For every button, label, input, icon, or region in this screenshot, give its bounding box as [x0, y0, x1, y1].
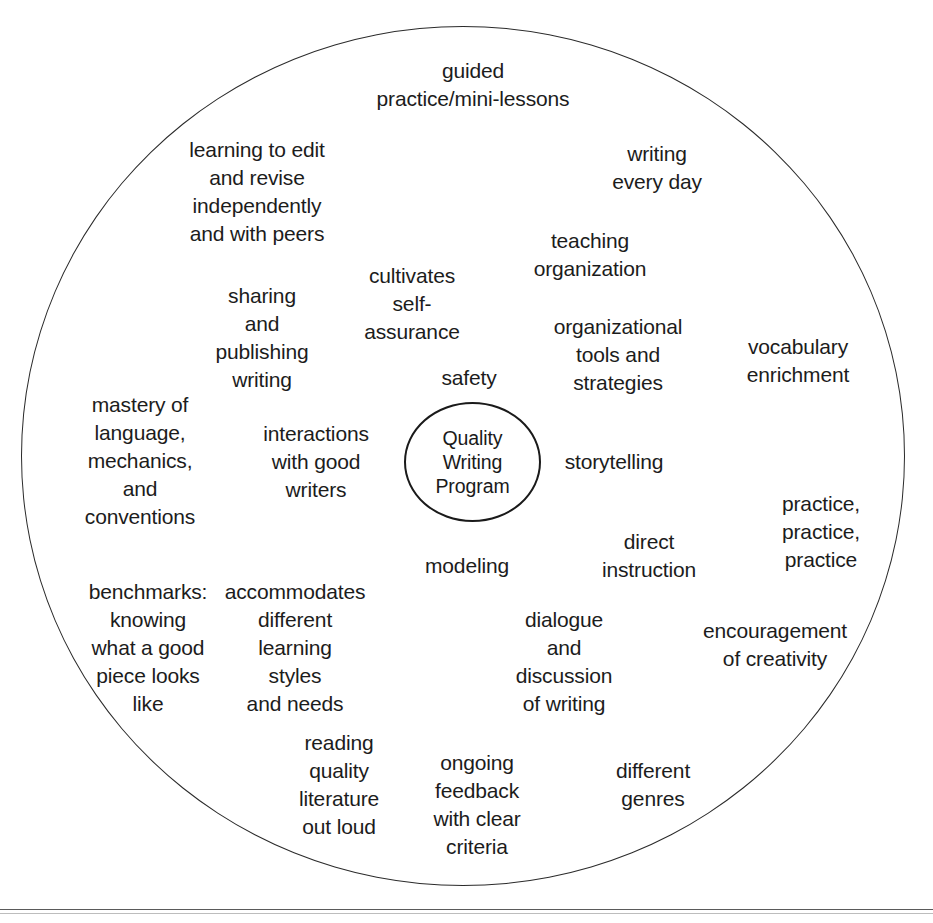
footer-divider [0, 909, 933, 910]
center-node-label: Quality Writing Program [435, 426, 509, 499]
node-interactions-with-good-writers: interactions with good writers [263, 420, 369, 504]
node-storytelling: storytelling [565, 448, 664, 476]
footer-divider-shadow [0, 913, 933, 914]
node-cultivates-self-assurance: cultivates self- assurance [364, 262, 460, 346]
node-accommodates-learning-styles: accommodates different learning styles a… [225, 578, 366, 718]
node-learning-to-edit: learning to edit and revise independentl… [189, 136, 324, 248]
node-vocabulary-enrichment: vocabulary enrichment [747, 333, 849, 389]
node-guided-practice: guided practice/mini-lessons [377, 57, 570, 113]
node-modeling: modeling [425, 552, 509, 580]
node-safety: safety [441, 364, 496, 392]
node-different-genres: different genres [616, 757, 690, 813]
center-node-circle: Quality Writing Program [404, 402, 541, 522]
node-benchmarks: benchmarks: knowing what a good piece lo… [89, 578, 208, 718]
node-dialogue-and-discussion: dialogue and discussion of writing [516, 606, 613, 718]
diagram-canvas: Quality Writing Program guided practice/… [0, 0, 933, 923]
node-teaching-organization: teaching organization [534, 227, 647, 283]
node-mastery-of-language: mastery of language, mechanics, and conv… [85, 391, 195, 531]
node-sharing-and-publishing: sharing and publishing writing [215, 282, 308, 394]
node-ongoing-feedback: ongoing feedback with clear criteria [433, 749, 520, 861]
node-practice-practice-practice: practice, practice, practice [782, 490, 860, 574]
node-writing-every-day: writing every day [612, 140, 702, 196]
node-reading-quality-literature: reading quality literature out loud [299, 729, 379, 841]
node-encouragement-of-creativity: encouragement of creativity [703, 617, 847, 673]
node-organizational-tools: organizational tools and strategies [554, 313, 683, 397]
node-direct-instruction: direct instruction [602, 528, 696, 584]
